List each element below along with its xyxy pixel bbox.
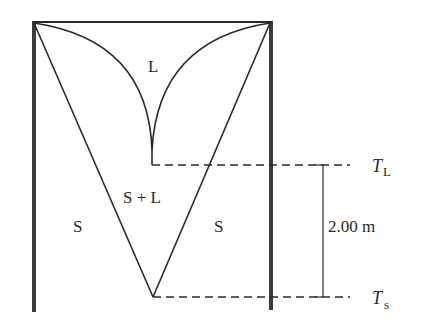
solidification-diagram: L S + L S S 2.00 m TL Ts	[0, 0, 422, 327]
liquidus-front-left	[34, 23, 152, 165]
solidus-front-left	[34, 23, 153, 297]
diagram-canvas: L S + L S S 2.00 m TL Ts	[0, 0, 422, 327]
solidus-front-right	[153, 23, 270, 297]
solidus-label: Ts	[372, 288, 389, 312]
region-label-solid-left: S	[73, 217, 82, 236]
region-label-solid-right: S	[214, 217, 223, 236]
liquidus-front-right	[152, 23, 270, 150]
liquidus-label: TL	[372, 156, 391, 179]
dimension-label: 2.00 m	[328, 217, 375, 236]
region-label-mushy: S + L	[123, 188, 161, 207]
region-label-liquid: L	[148, 57, 158, 76]
